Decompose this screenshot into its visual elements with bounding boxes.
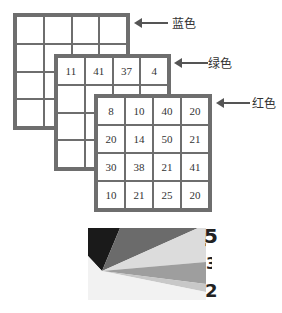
pie-chart-fragment: 5	[88, 228, 206, 300]
red-label: 红色	[252, 94, 276, 111]
red-cell: 20	[97, 125, 125, 153]
blue-arrow-icon	[140, 22, 168, 24]
red-cell: 21	[181, 125, 209, 153]
green-cell: 4	[140, 57, 168, 85]
green-cell: 41	[85, 57, 113, 85]
red-cell: 21	[125, 181, 153, 209]
pie-slices-icon	[88, 228, 206, 300]
red-cell: 40	[153, 97, 181, 125]
red-cell: 38	[125, 153, 153, 181]
red-cell: 30	[97, 153, 125, 181]
red-cell: 10	[125, 97, 153, 125]
blue-cell	[16, 72, 44, 100]
blue-cell	[16, 16, 44, 44]
red-cell: 41	[181, 153, 209, 181]
blue-cell	[16, 44, 44, 72]
green-cell	[57, 85, 85, 113]
red-arrow-icon	[222, 102, 250, 104]
green-arrow-icon	[180, 62, 208, 64]
red-cell: 14	[125, 125, 153, 153]
green-cell: 11	[57, 57, 85, 85]
red-cell: 50	[153, 125, 181, 153]
red-cell: 8	[97, 97, 125, 125]
red-cell: 10	[97, 181, 125, 209]
pie-label-3: 3	[206, 254, 212, 273]
pie-label-5-visible: 5	[204, 224, 218, 248]
blue-cell	[72, 16, 100, 44]
red-cell: 20	[181, 97, 209, 125]
blue-cell	[99, 16, 127, 44]
red-cell: 25	[153, 181, 181, 209]
green-cell	[57, 140, 85, 168]
blue-cell	[16, 99, 44, 127]
blue-cell	[44, 16, 72, 44]
green-cell	[57, 113, 85, 141]
green-label: 绿色	[208, 54, 232, 71]
blue-label: 蓝色	[172, 14, 196, 31]
red-cell: 20	[181, 181, 209, 209]
red-channel-grid: 8104020201450213038214110212520	[94, 94, 212, 212]
pie-label-2: 2	[205, 280, 218, 301]
red-cell: 21	[153, 153, 181, 181]
green-cell: 37	[113, 57, 141, 85]
